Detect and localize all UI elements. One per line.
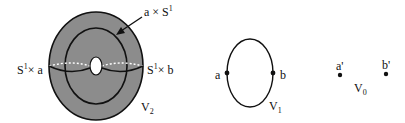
label-point-a: a: [215, 69, 220, 81]
label-a-times-s1: a × S1: [144, 6, 173, 18]
label-point-b-prime: b': [382, 59, 390, 71]
label-s1-times-b: S1× b: [147, 64, 173, 76]
point-b-prime-dot: [384, 72, 388, 76]
points-v0: [338, 72, 388, 77]
torus-v2: [49, 12, 143, 120]
point-b-dot: [271, 71, 276, 76]
label-v1: V1: [269, 100, 282, 112]
label-s1-times-a: S1× a: [17, 64, 43, 76]
torus-hole: [90, 57, 102, 75]
label-point-b: b: [280, 69, 286, 81]
circle-v1-curve: [227, 39, 273, 107]
circle-v1: [225, 39, 276, 107]
label-point-a-prime: a': [336, 60, 344, 72]
label-v0: V0: [354, 82, 367, 94]
point-a-prime-dot: [338, 73, 342, 77]
label-v2: V2: [141, 101, 154, 113]
point-a-dot: [225, 71, 230, 76]
diagram-canvas: [0, 0, 405, 123]
